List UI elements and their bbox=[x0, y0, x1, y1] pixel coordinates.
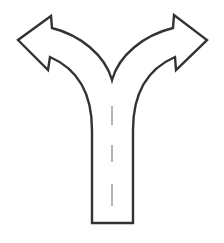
fork-in-road-icon bbox=[0, 0, 224, 243]
split-arrow-canvas: Two-way split road arrow bbox=[0, 0, 224, 243]
